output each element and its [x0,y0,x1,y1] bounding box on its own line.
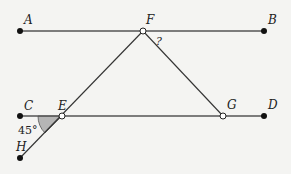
label-g: G [227,98,237,112]
geometry-diagram: A F B ? C E G D 45° H [0,0,291,174]
point-a [17,28,23,34]
point-h [17,155,23,161]
point-e [59,113,65,119]
label-angle-45: 45° [18,124,38,137]
label-a: A [23,13,33,27]
label-d: D [267,98,278,112]
label-h: H [15,140,27,154]
label-c: C [24,99,33,113]
diagram-canvas: A F B ? C E G D 45° H [0,0,291,174]
point-b [261,28,267,34]
label-unknown-angle: ? [156,35,162,48]
label-b: B [267,13,277,27]
line-fg [143,31,223,116]
line-hf [20,31,143,158]
point-f [140,28,146,34]
point-d [261,113,267,119]
point-c [17,113,23,119]
label-e: E [57,99,67,113]
point-g [220,113,226,119]
label-f: F [145,13,155,27]
